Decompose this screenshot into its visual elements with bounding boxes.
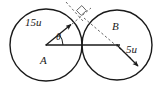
velocity-b-label: 5u [126, 44, 137, 55]
circle-collision-diagram: 15u 5u A B θ [0, 0, 163, 88]
dashed-common-tangent [66, 2, 83, 21]
center-point-a [45, 44, 47, 46]
velocity-a-label: 15u [25, 17, 42, 28]
diagram-canvas [0, 0, 163, 88]
theta-angle-label: θ [56, 32, 61, 42]
right-angle-marker-icon [77, 6, 87, 16]
center-point-b [116, 44, 118, 46]
circle-b-label: B [112, 21, 119, 32]
circle-a-label: A [40, 55, 47, 66]
